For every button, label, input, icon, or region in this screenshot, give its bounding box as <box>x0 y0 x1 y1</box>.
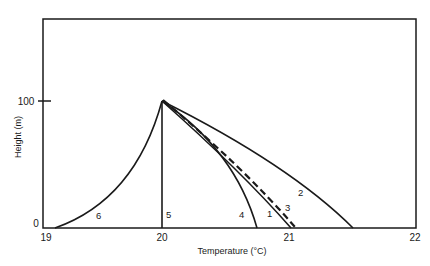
x-tick-19: 19 <box>40 232 52 243</box>
curve-2 <box>162 101 353 228</box>
chart: 19 20 21 22 0 100 Temperature (°C) Heigh… <box>0 0 430 266</box>
curve-label-4: 4 <box>239 209 244 220</box>
y-tick-label-100: 100 <box>18 96 35 107</box>
y-axis-title: Height (m) <box>13 116 23 158</box>
curve-label-1: 1 <box>267 208 272 219</box>
x-tick-20: 20 <box>156 232 168 243</box>
curve-label-3: 3 <box>285 202 290 213</box>
curve-6 <box>55 101 162 228</box>
curve-label-6: 6 <box>96 210 101 221</box>
x-axis-title: Temperature (°C) <box>197 246 266 256</box>
curve-label-2: 2 <box>298 187 303 198</box>
x-tick-22: 22 <box>409 232 421 243</box>
curve-label-5: 5 <box>166 209 171 220</box>
plot-frame <box>43 19 416 228</box>
x-tick-21: 21 <box>283 232 295 243</box>
y-tick-label-0: 0 <box>33 218 39 229</box>
